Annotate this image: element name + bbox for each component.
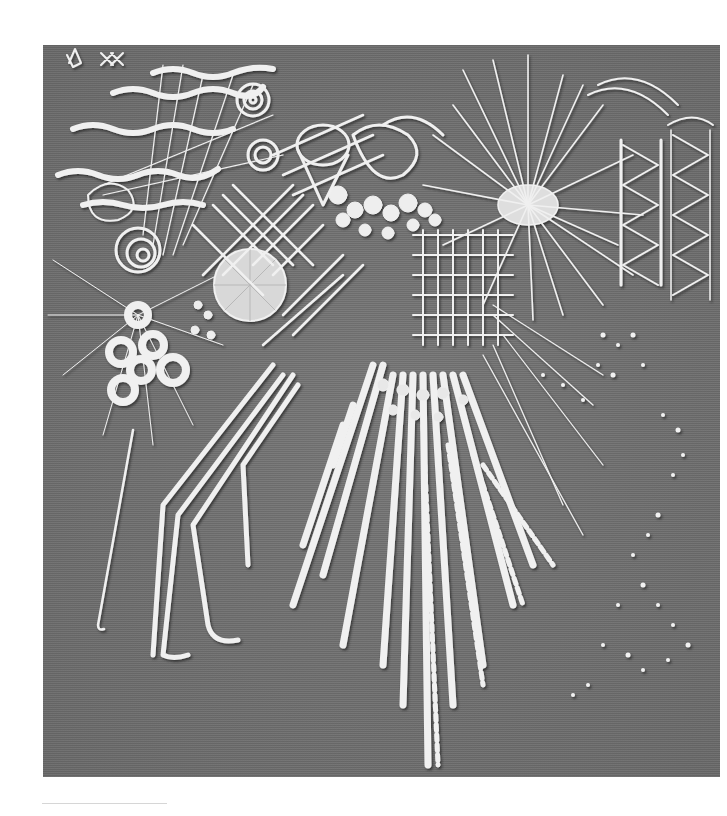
long-stitch-grid: [413, 230, 513, 345]
embroidery-artwork: [43, 45, 720, 777]
thin-cord: [98, 430, 133, 630]
cascading-fan: [293, 365, 533, 765]
stitched-glyph-mark: [67, 49, 123, 67]
trailing-cords: [153, 365, 298, 658]
diagonal-rays: [483, 305, 603, 535]
woven-wheel: [214, 249, 286, 321]
seed-stitches: [541, 333, 691, 698]
starburst: [423, 55, 643, 320]
page-rule: [42, 803, 167, 804]
embroidery-photo: [43, 45, 720, 777]
zigzag-bands: [588, 78, 713, 300]
lattice-stitch: [193, 115, 383, 345]
